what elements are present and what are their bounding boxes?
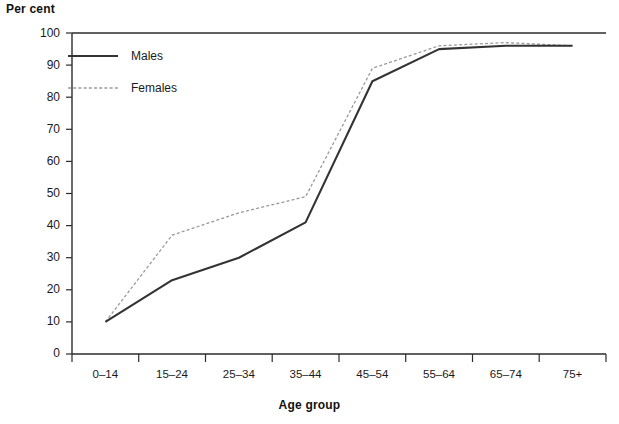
y-tick-label-90: 90 [28, 59, 60, 71]
x-tick-label-25-34: 25–34 [206, 368, 273, 380]
x-tick-label-0-14: 0–14 [72, 368, 139, 380]
plot-area [0, 0, 619, 424]
percent-by-age-group-line-chart: Per cent Age group [0, 0, 619, 424]
x-tick-label-45-54: 45–54 [339, 368, 406, 380]
legend-label-females: Females [131, 81, 177, 95]
legend-label-males: Males [131, 49, 163, 63]
y-tick-label-80: 80 [28, 91, 60, 103]
x-tick-label-55-64: 55–64 [406, 368, 473, 380]
y-tick-label-50: 50 [28, 187, 60, 199]
y-tick-label-10: 10 [28, 315, 60, 327]
x-tick-label-75plus: 75+ [539, 368, 606, 380]
y-tick-label-70: 70 [28, 123, 60, 135]
y-tick-label-60: 60 [28, 155, 60, 167]
y-axis-ticks [66, 33, 72, 354]
y-tick-label-40: 40 [28, 219, 60, 231]
y-tick-label-100: 100 [28, 27, 60, 39]
x-tick-label-35-44: 35–44 [272, 368, 339, 380]
y-tick-label-30: 30 [28, 251, 60, 263]
y-tick-label-0: 0 [28, 347, 60, 359]
y-tick-label-20: 20 [28, 283, 60, 295]
x-tick-label-15-24: 15–24 [139, 368, 206, 380]
x-tick-label-65-74: 65–74 [473, 368, 540, 380]
x-axis-ticks [72, 354, 606, 362]
